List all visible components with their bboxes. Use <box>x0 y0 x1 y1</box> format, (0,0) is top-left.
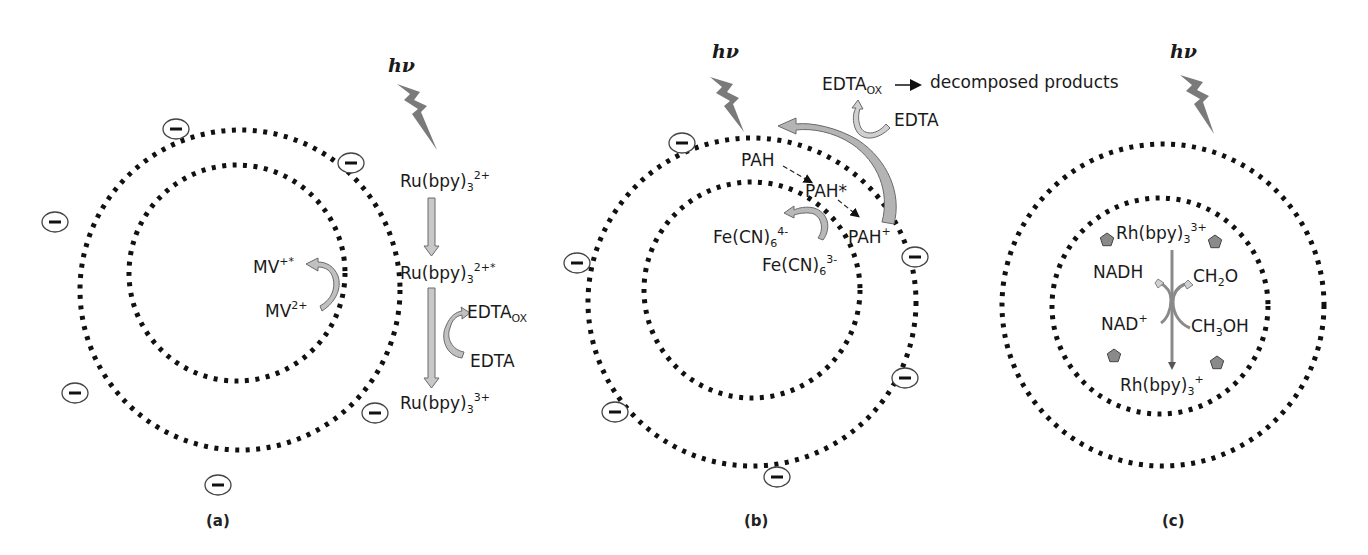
inner-membrane-circle <box>644 182 860 398</box>
nadh-oxidation-arrow <box>1160 283 1171 323</box>
hv-label-a: hν <box>388 56 415 75</box>
ch2o-label: CH2O <box>1193 268 1238 288</box>
decomposed-products-label: decomposed products <box>930 74 1119 91</box>
negative-charge-icon <box>602 402 628 422</box>
hv-label-c: hν <box>1170 42 1197 61</box>
edta-oxidation-arrow <box>852 100 890 138</box>
panel-label-a: (a) <box>206 514 230 529</box>
panel-b-shapes <box>588 77 919 466</box>
negative-charge-icon <box>163 119 189 139</box>
co2-reduction-arrow <box>1173 284 1190 328</box>
catalyst-pentagon-icon <box>1210 356 1223 369</box>
negative-charge-icon <box>764 467 790 487</box>
inner-membrane-circle <box>129 165 345 381</box>
panel-label-b: (b) <box>744 514 768 529</box>
ch2o-arrow-head <box>1184 280 1193 289</box>
negative-charge-icon <box>205 475 231 495</box>
mv-reduction-arrow <box>306 258 339 311</box>
nadh-arrow-head <box>1155 279 1164 288</box>
negative-charge-icon <box>42 212 68 232</box>
nad-plus-label: NAD+ <box>1101 313 1148 333</box>
arrow-head <box>1168 362 1176 370</box>
edta-ox-label: EDTAOX <box>822 76 882 96</box>
pah-label: PAH <box>741 152 775 169</box>
edta-ox-label: EDTAOX <box>467 304 527 324</box>
negative-charge-icon <box>338 153 364 173</box>
panel-c-shapes <box>1002 75 1324 466</box>
ru-bpy-2plus-excited: Ru(bpy)32+* <box>400 262 495 285</box>
lightning-icon <box>1180 75 1214 134</box>
catalyst-pentagon-icon <box>1208 235 1221 248</box>
catalyst-pentagon-icon <box>1107 349 1120 362</box>
ferrocyanide-label: Fe(CN)64- <box>713 226 788 249</box>
negative-charge-icon <box>62 383 88 403</box>
negative-charge-icon <box>902 247 928 267</box>
ru-bpy-3plus: Ru(bpy)33+ <box>400 392 490 415</box>
lightning-icon <box>397 84 437 150</box>
catalyst-pentagon-icon <box>1100 233 1113 246</box>
hv-label-b: hν <box>712 42 739 61</box>
pah-cation-label: PAH+ <box>848 226 891 246</box>
diagram-canvas <box>0 0 1368 555</box>
outer-membrane-circle <box>80 130 400 450</box>
pah-electron-transfer-arrow <box>838 200 858 216</box>
nadh-label: NADH <box>1093 264 1143 281</box>
ferricyanide-reduction-arrow <box>784 206 828 240</box>
pah-excitation-arrow <box>783 166 811 182</box>
ru-bpy-2plus: Ru(bpy)32+ <box>400 170 490 193</box>
mv-radical-label: MV+* <box>253 256 294 276</box>
negative-charge-icon <box>669 133 695 153</box>
figure: hν Ru(bpy)32+ Ru(bpy)32+* EDTAOX EDTA Ru… <box>0 0 1368 555</box>
negative-charge-icon <box>892 368 918 388</box>
catalyst-pentagons <box>1100 233 1223 369</box>
reduction-arrow <box>424 288 439 388</box>
ferricyanide-label: Fe(CN)63- <box>762 254 837 277</box>
excitation-arrow <box>424 198 439 256</box>
panel-label-c: (c) <box>1162 514 1185 529</box>
rh-bpy-plus: Rh(bpy)3+ <box>1120 374 1204 397</box>
ch3oh-label: CH3OH <box>1191 318 1249 338</box>
outer-membrane-circle <box>588 138 916 466</box>
edta-label: EDTA <box>470 353 515 370</box>
negative-charge-icon <box>564 253 590 273</box>
mv-2plus-label: MV2+ <box>265 300 308 320</box>
lightning-icon <box>710 77 744 132</box>
negative-charge-icon <box>362 403 388 423</box>
edta-label: EDTA <box>894 112 939 129</box>
pah-excited-label: PAH* <box>805 183 847 200</box>
rh-bpy-3plus: Rh(bpy)33+ <box>1116 222 1207 245</box>
